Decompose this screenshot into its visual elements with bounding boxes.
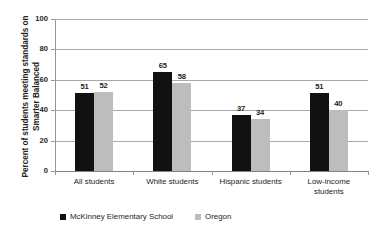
x-label-line: Low-income bbox=[290, 177, 368, 187]
x-tick-mark bbox=[290, 171, 291, 175]
legend-item[interactable]: McKinney Elementary School bbox=[60, 212, 173, 221]
x-label-line: All students bbox=[55, 177, 133, 187]
bar-value-label: 58 bbox=[170, 73, 194, 81]
bar-value-label: 34 bbox=[248, 109, 272, 117]
legend-item[interactable]: Oregon bbox=[195, 212, 231, 221]
x-axis-label: Hispanic students bbox=[212, 177, 290, 187]
bar-value-label: 51 bbox=[307, 83, 331, 91]
x-label-line: Hispanic students bbox=[212, 177, 290, 187]
x-tick-mark bbox=[368, 171, 369, 175]
x-axis-label: White students bbox=[133, 177, 211, 187]
legend-label: McKinney Elementary School bbox=[70, 212, 173, 221]
gridline bbox=[55, 49, 368, 50]
x-label-line: students bbox=[290, 187, 368, 197]
y-tick-label: 100 bbox=[22, 15, 48, 23]
x-axis-label: Low-incomestudents bbox=[290, 177, 368, 196]
bar bbox=[75, 93, 94, 171]
y-tick-label: 20 bbox=[22, 137, 48, 145]
y-axis-title: Percent of students meeting standards on… bbox=[21, 4, 42, 190]
legend-label: Oregon bbox=[205, 212, 231, 221]
plot-area: 5152655837345140 bbox=[55, 19, 368, 171]
bar bbox=[94, 92, 113, 171]
y-tick-label: 80 bbox=[22, 45, 48, 53]
x-tick-mark bbox=[212, 171, 213, 175]
bar bbox=[232, 115, 251, 171]
bar bbox=[172, 83, 191, 171]
bar-chart: Percent of students meeting standards on… bbox=[0, 0, 379, 240]
legend-swatch-icon bbox=[195, 214, 201, 220]
y-axis-line bbox=[55, 19, 56, 171]
bar-value-label: 40 bbox=[326, 100, 350, 108]
y-tick-label: 60 bbox=[22, 76, 48, 84]
x-tick-mark bbox=[55, 171, 56, 175]
legend-swatch-icon bbox=[60, 214, 66, 220]
bar bbox=[251, 119, 270, 171]
chart-legend: McKinney Elementary SchoolOregon bbox=[60, 212, 231, 221]
bar-value-label: 65 bbox=[151, 62, 175, 70]
bar bbox=[153, 72, 172, 171]
y-tick-label: 40 bbox=[22, 106, 48, 114]
x-axis-label: All students bbox=[55, 177, 133, 187]
bar-value-label: 52 bbox=[92, 82, 116, 90]
x-label-line: White students bbox=[133, 177, 211, 187]
y-tick-label: 0 bbox=[22, 167, 48, 175]
x-tick-mark bbox=[133, 171, 134, 175]
bar bbox=[329, 110, 348, 171]
gridline bbox=[55, 19, 368, 20]
